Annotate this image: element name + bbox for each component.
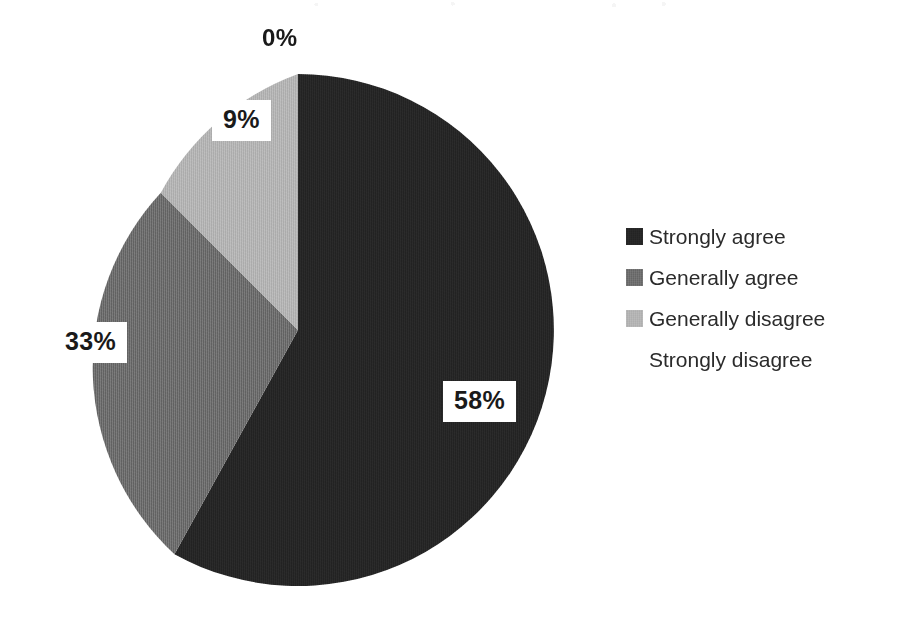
legend-swatch-icon (626, 228, 643, 245)
data-label-generally-disagree: 9% (212, 100, 271, 141)
data-label-strongly-agree: 58% (443, 381, 516, 422)
legend-label: Generally agree (649, 267, 798, 288)
legend-item-generally-agree[interactable]: Generally agree (626, 257, 896, 298)
data-label-generally-agree: 33% (54, 322, 127, 363)
chart-legend: Strongly agree Generally agree Generally… (626, 216, 896, 380)
legend-item-strongly-disagree[interactable]: Strongly disagree (626, 339, 896, 380)
legend-swatch-icon (626, 351, 643, 368)
legend-item-generally-disagree[interactable]: Generally disagree (626, 298, 896, 339)
data-label-strongly-disagree: 0% (262, 26, 297, 50)
legend-swatch-icon (626, 269, 643, 286)
legend-item-strongly-agree[interactable]: Strongly agree (626, 216, 896, 257)
legend-label: Strongly agree (649, 226, 786, 247)
pie-chart: 0% 9% 33% 58% (0, 0, 600, 621)
legend-swatch-icon (626, 310, 643, 327)
legend-label: Generally disagree (649, 308, 825, 329)
legend-label: Strongly disagree (649, 349, 812, 370)
